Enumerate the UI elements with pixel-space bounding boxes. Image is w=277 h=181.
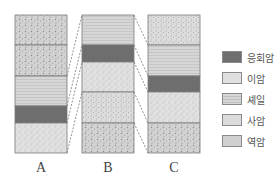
legend-item-conglomerate: 역암 [222,134,265,148]
conglomerate-swatch-icon [222,135,242,147]
correlation-line [67,45,82,106]
correlation-line [134,62,148,92]
legend-label: 셰일 [247,92,265,107]
tuff-swatch-icon [222,51,242,63]
layer-shale [82,15,134,45]
column-c [148,15,200,153]
legend-item-mudstone: 이암 [222,71,265,85]
layer-conglomerate [15,45,67,76]
stratigraphic-correlation-diagram [0,0,277,181]
column-a [15,15,67,153]
legend-label: 응회암 [247,50,274,65]
column-label-a: A [16,160,66,176]
layer-shale [148,45,200,76]
correlation-line [67,92,82,153]
legend-label: 역암 [247,134,265,149]
legend-item-tuff: 응회암 [222,50,274,64]
correlation-line [67,15,82,76]
shale-swatch-icon [222,93,242,105]
sandstone-swatch-icon [222,114,242,126]
layer-shale [15,76,67,106]
layer-tuff [148,76,200,92]
columns-group [15,15,200,153]
legend-item-shale: 셰일 [222,92,265,106]
layer-mudstone [148,92,200,123]
legend-label: 이암 [247,71,265,86]
layer-conglomerate [82,123,134,153]
layer-conglomerate [148,123,200,153]
layer-conglomerate [15,15,67,45]
layer-tuff [15,106,67,123]
layer-sandstone [148,15,200,45]
correlation-line [134,15,148,45]
column-label-c: C [149,160,199,176]
correlation-line [134,45,148,76]
correlation-line [67,62,82,123]
layer-mudstone [82,62,134,92]
layer-mudstone [15,123,67,153]
correlation-line [134,92,148,123]
legend-label: 사암 [247,113,265,128]
correlation-line [134,123,148,153]
layer-sandstone [82,92,134,123]
column-label-b: B [83,160,133,176]
legend-item-sandstone: 사암 [222,113,265,127]
column-b [82,15,134,153]
layer-tuff [82,45,134,62]
mudstone-swatch-icon [222,72,242,84]
